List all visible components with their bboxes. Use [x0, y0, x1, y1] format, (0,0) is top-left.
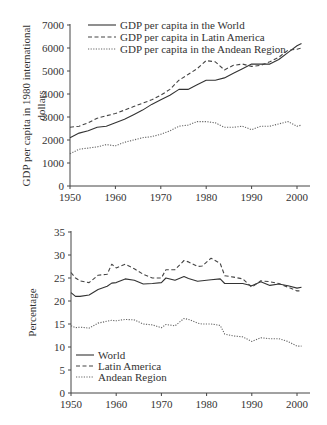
legend-label: GDP per capita in the Andean Region	[120, 43, 286, 55]
x-tick-label: 1980	[195, 191, 218, 203]
x-tick-label: 1960	[105, 398, 128, 410]
legend-label: Andean Region	[98, 371, 167, 383]
series-line-dashed	[71, 258, 302, 291]
y-tick-label: 20	[54, 295, 66, 307]
x-tick-label: 1970	[150, 398, 173, 410]
legend: GDP per capita in the WorldGDP per capit…	[88, 19, 286, 55]
y-axis-label: Percentage	[26, 288, 38, 336]
y-axis-label: GDP per capita in 1980 international	[20, 25, 32, 187]
series-line-dashed	[70, 48, 302, 127]
x-tick-label: 1990	[241, 398, 264, 410]
x-tick-label: 1990	[241, 191, 264, 203]
series-line-solid	[71, 277, 302, 297]
series-line-solid	[70, 43, 302, 137]
legend: WorldLatin AmericaAndean Region	[76, 349, 167, 383]
y-tick-label: 15	[54, 318, 66, 330]
figure: 0100020003000400050006000700019501960197…	[0, 0, 327, 425]
x-tick-label: 1950	[60, 398, 83, 410]
legend-label: GDP per capita in Latin America	[120, 31, 265, 43]
x-tick-label: 1950	[59, 191, 82, 203]
x-tick-label: 1970	[150, 191, 173, 203]
y-tick-label: 10	[54, 341, 66, 353]
y-tick-label: 5	[60, 364, 66, 376]
chart-canvas: 0100020003000400050006000700019501960197…	[0, 0, 327, 425]
gdp-per-capita-chart: 0100020003000400050006000700019501960197…	[20, 19, 310, 203]
y-tick-label: 7000	[42, 19, 65, 31]
x-tick-label: 1980	[196, 398, 219, 410]
series-line-dotted	[71, 319, 302, 347]
y-axis-label: dollars	[35, 91, 47, 121]
y-tick-label: 30	[54, 249, 66, 261]
percentage-chart: 05101520253035195019601970198019902000Pe…	[26, 226, 310, 410]
y-tick-label: 35	[54, 226, 66, 238]
y-tick-label: 6000	[42, 42, 65, 54]
y-tick-label: 5000	[42, 65, 65, 77]
y-tick-label: 25	[54, 272, 66, 284]
x-tick-label: 1960	[104, 191, 127, 203]
y-tick-label: 1000	[42, 157, 65, 169]
y-tick-label: 2000	[42, 134, 65, 146]
x-tick-label: 2000	[286, 398, 309, 410]
x-tick-label: 2000	[286, 191, 309, 203]
legend-label: GDP per capita in the World	[120, 19, 245, 31]
